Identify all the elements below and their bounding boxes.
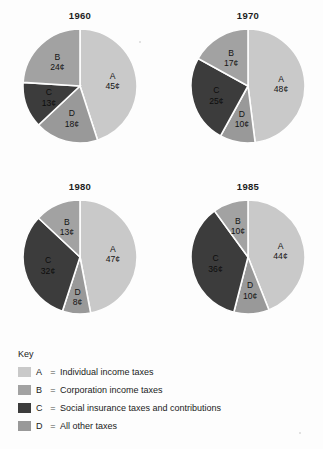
legend-key-d: D xyxy=(36,421,46,431)
legend-label-b: Corporation income taxes xyxy=(60,385,163,395)
pie-svg-1960 xyxy=(22,28,138,144)
pie-chart-1985: A44¢D10¢C36¢B10¢ xyxy=(190,199,306,315)
pie-chart-figure: 1960 A45¢D18¢C13¢B24¢ 1970 A48¢D10¢C25¢B… xyxy=(0,0,323,449)
pie-title-1985: 1985 xyxy=(208,181,288,192)
pie-chart-1960: A45¢D18¢C13¢B24¢ xyxy=(22,28,138,144)
pie-svg-1970 xyxy=(190,28,306,144)
pie-chart-1970: A48¢D10¢C25¢B17¢ xyxy=(190,28,306,144)
legend-equals-a: = xyxy=(46,367,60,377)
pie-slice-a xyxy=(80,200,137,313)
legend-item-a: A = Individual income taxes xyxy=(18,365,308,379)
legend-equals-b: = xyxy=(46,385,60,395)
legend-equals-d: = xyxy=(46,421,60,431)
pie-slice-b xyxy=(23,29,80,86)
pie-svg-1980 xyxy=(22,199,138,315)
legend-equals-c: = xyxy=(46,403,60,413)
legend-item-c: C = Social insurance taxes and contribut… xyxy=(18,401,308,415)
legend-key-a: A xyxy=(36,367,46,377)
pie-svg-1985 xyxy=(190,199,306,315)
legend-label-c: Social insurance taxes and contributions xyxy=(60,403,221,413)
legend-swatch-c xyxy=(18,403,31,413)
legend: Key A = Individual income taxes B = Corp… xyxy=(18,349,308,437)
legend-item-d: D = All other taxes xyxy=(18,419,308,433)
pie-title-1970: 1970 xyxy=(208,10,288,21)
legend-swatch-d xyxy=(18,421,31,431)
legend-swatch-a xyxy=(18,367,31,377)
pie-slice-a xyxy=(248,29,305,143)
legend-swatch-b xyxy=(18,385,31,395)
legend-label-a: Individual income taxes xyxy=(60,367,154,377)
legend-key-c: C xyxy=(36,403,46,413)
pie-chart-1980: A47¢D8¢C32¢B13¢ xyxy=(22,199,138,315)
legend-key-b: B xyxy=(36,385,46,395)
legend-item-b: B = Corporation income taxes xyxy=(18,383,308,397)
pie-title-1960: 1960 xyxy=(40,10,120,21)
pie-title-1980: 1980 xyxy=(40,181,120,192)
scan-speck xyxy=(139,41,141,43)
legend-heading: Key xyxy=(18,349,308,359)
legend-label-d: All other taxes xyxy=(60,421,117,431)
